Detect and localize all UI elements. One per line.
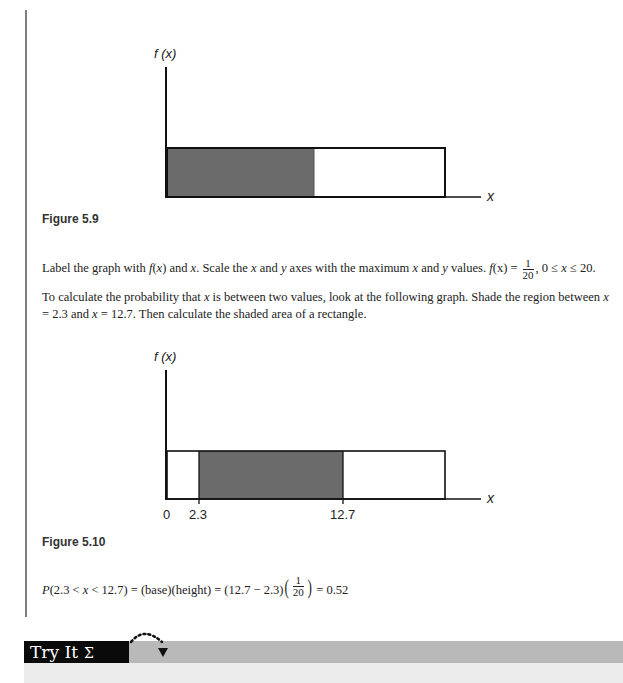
shaded-region: [167, 148, 314, 197]
tick-label-2-3: 2.3: [189, 507, 207, 522]
shaded-region: [199, 451, 343, 499]
uniform-rectangle: [167, 451, 445, 499]
tick-label-0: 0: [163, 507, 170, 522]
figure-5-9-plot: [165, 67, 481, 198]
fraction: 120: [293, 575, 304, 598]
fraction: 120: [523, 258, 534, 281]
sigma-icon: Σ: [84, 645, 94, 661]
tick-label-12-7: 12.7: [330, 507, 355, 522]
try-it-body: [24, 663, 623, 683]
instruction-paragraph: Label the graph with f(x) and x. Scale t…: [42, 258, 612, 281]
x-axis-label: x: [487, 188, 494, 204]
probability-formula: P(2.3 < x < 12.7) = (base)(height) = (12…: [42, 575, 612, 599]
figure-5-10-plot: [165, 370, 481, 504]
x-axis-label: x: [487, 490, 494, 506]
left-margin-rule: [25, 10, 27, 617]
figure-caption: Figure 5.10: [42, 535, 105, 549]
uniform-rectangle: [167, 148, 445, 197]
dotted-arrow-icon: [126, 628, 171, 662]
y-axis-label: f (x): [154, 349, 176, 364]
figure-caption: Figure 5.9: [42, 212, 99, 226]
y-axis-label: f (x): [154, 46, 176, 61]
try-it-label: Try ItΣ: [24, 641, 129, 663]
probability-paragraph: To calculate the probability that x is b…: [42, 289, 612, 323]
